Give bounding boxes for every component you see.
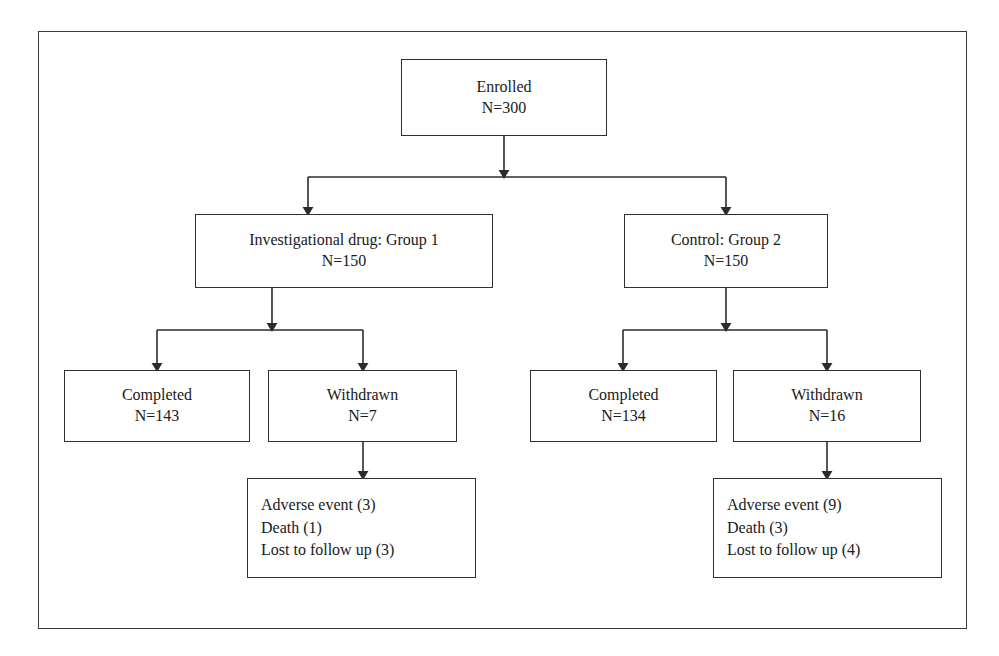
node-completed1-count: N=143 — [135, 406, 180, 427]
node-withdrawn-group-2: Withdrawn N=16 — [733, 370, 921, 442]
node-withdrawn1-label: Withdrawn — [327, 385, 398, 406]
node-group2-count: N=150 — [704, 251, 749, 272]
node-group2-label: Control: Group 2 — [671, 230, 781, 251]
node-completed1-label: Completed — [122, 385, 192, 406]
node-enrolled: Enrolled N=300 — [401, 59, 607, 136]
node-group1-count: N=150 — [322, 251, 367, 272]
node-completed-group-1: Completed N=143 — [64, 370, 250, 442]
reason-adverse-event-group-2: Adverse event (9) — [727, 494, 842, 517]
reason-death-group-1: Death (1) — [261, 517, 322, 540]
node-withdrawn2-label: Withdrawn — [791, 385, 862, 406]
node-group1-label: Investigational drug: Group 1 — [249, 230, 439, 251]
reason-lost-to-follow-up-group-1: Lost to follow up (3) — [261, 539, 394, 562]
reason-lost-to-follow-up-group-2: Lost to follow up (4) — [727, 539, 860, 562]
node-withdrawn2-count: N=16 — [809, 406, 846, 427]
node-control-group-2: Control: Group 2 N=150 — [624, 214, 828, 288]
node-completed2-count: N=134 — [601, 406, 646, 427]
node-enrolled-count: N=300 — [482, 98, 527, 119]
node-enrolled-label: Enrolled — [476, 77, 531, 98]
node-withdrawal-reasons-group-2: Adverse event (9) Death (3) Lost to foll… — [713, 478, 942, 578]
node-completed-group-2: Completed N=134 — [530, 370, 717, 442]
reason-death-group-2: Death (3) — [727, 517, 788, 540]
node-withdrawal-reasons-group-1: Adverse event (3) Death (1) Lost to foll… — [247, 478, 476, 578]
node-withdrawn1-count: N=7 — [348, 406, 377, 427]
node-investigational-group-1: Investigational drug: Group 1 N=150 — [195, 214, 493, 288]
reason-adverse-event-group-1: Adverse event (3) — [261, 494, 376, 517]
node-completed2-label: Completed — [588, 385, 658, 406]
flowchart-canvas: Enrolled N=300 Investigational drug: Gro… — [0, 0, 999, 656]
node-withdrawn-group-1: Withdrawn N=7 — [268, 370, 457, 442]
